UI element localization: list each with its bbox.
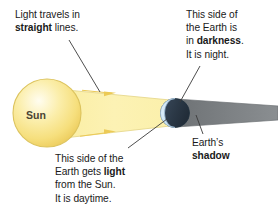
darkness-line3-pre: in [186, 35, 197, 46]
daytime-line3: from the Sun. [55, 179, 116, 190]
straight-lines-rest: lines. [52, 22, 78, 33]
daytime-bold: light [104, 166, 125, 177]
leader-straight-lines [69, 40, 100, 92]
earth-shadow-line1: Earth’s [192, 137, 223, 148]
callout-darkness: This side ofthe Earth isin darkness.It i… [186, 8, 244, 61]
darkness-line3-post: . [241, 35, 244, 46]
callout-straight-lines: Light travels instraight lines. [15, 8, 80, 34]
darkness-line4: It is night. [186, 49, 229, 60]
sun-body [13, 79, 81, 147]
daytime-line1: This side of the [55, 153, 123, 164]
callout-daytime: This side of theEarth gets lightfrom the… [55, 152, 125, 205]
diagram-canvas: Sun Light travels instraight lines. This… [0, 0, 278, 212]
straight-lines-line1: Light travels in [15, 9, 80, 20]
earth-body [161, 99, 190, 128]
straight-lines-bold: straight [15, 22, 52, 33]
callout-earth-shadow: Earth’sshadow [192, 136, 230, 162]
darkness-line2: the Earth is [186, 22, 237, 33]
daytime-line4: It is daytime. [55, 193, 111, 204]
sun-label: Sun [26, 109, 46, 121]
leader-darkness [180, 66, 200, 102]
earth-shadow-cone [176, 99, 278, 127]
earth-shadow-bold: shadow [192, 150, 230, 161]
darkness-line1: This side of [186, 9, 238, 20]
darkness-bold: darkness [197, 35, 241, 46]
daytime-line2-pre: Earth gets [55, 166, 104, 177]
